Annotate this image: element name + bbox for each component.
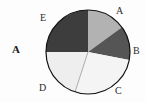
pie-label-C: C — [115, 86, 122, 96]
pie-label-D: D — [39, 83, 46, 93]
pie-label-E: E — [40, 13, 46, 23]
figure-label: A — [12, 44, 20, 55]
pie-chart-figure: A A B C D E — [0, 0, 145, 102]
pie-chart-graphic — [0, 0, 145, 102]
pie-label-B: B — [133, 46, 140, 56]
pie-label-A: A — [116, 6, 123, 16]
